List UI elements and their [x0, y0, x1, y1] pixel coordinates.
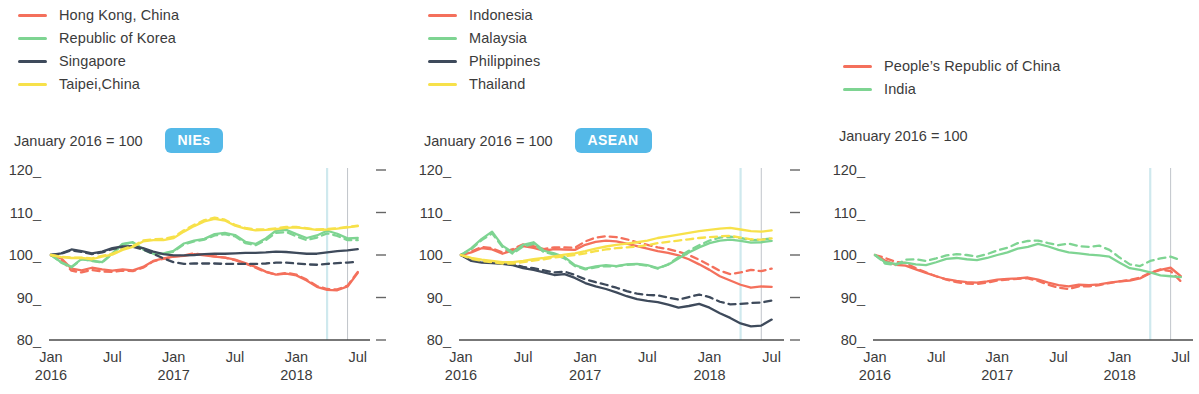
chart-svg — [825, 160, 1199, 355]
panel-asean: Indonesia Malaysia Philippines Thailand … — [410, 0, 825, 394]
series-line — [875, 241, 1181, 266]
legend-swatch-icon — [18, 37, 47, 40]
x-tick-label: Jul — [762, 349, 781, 366]
subtitle-row: January 2016 = 100 — [839, 128, 968, 144]
x-tick-year: 2018 — [1104, 366, 1136, 384]
x-axis-labels: Jan2016JulJan2017JulJan2018Jul — [0, 349, 410, 394]
legend-swatch-icon — [18, 83, 47, 86]
legend-item: India — [843, 78, 1060, 101]
x-tick-label: Jul — [348, 349, 367, 366]
plot-area-nies — [0, 160, 410, 350]
x-tick-label: Jan2017 — [569, 349, 601, 384]
x-tick-label: Jan2017 — [158, 349, 190, 384]
x-tick-month: Jan — [859, 349, 891, 366]
x-tick-label: Jul — [226, 349, 245, 366]
x-tick-year: 2016 — [445, 366, 477, 384]
legend-nies: Hong Kong, China Republic of Korea Singa… — [18, 4, 179, 96]
legend-item: Philippines — [428, 50, 540, 73]
x-tick-month: Jul — [638, 349, 657, 366]
legend-item: Republic of Korea — [18, 27, 179, 50]
x-tick-month: Jul — [927, 349, 946, 366]
index-base-note: January 2016 = 100 — [424, 133, 553, 149]
x-tick-month: Jan — [1104, 349, 1136, 366]
legend-label: Hong Kong, China — [59, 8, 179, 23]
x-tick-month: Jul — [514, 349, 533, 366]
x-tick-label: Jul — [638, 349, 657, 366]
legend-item: Thailand — [428, 73, 540, 96]
series-line — [461, 228, 772, 262]
legend-item: People’s Republic of China — [843, 55, 1060, 78]
legend-label: Malaysia — [469, 31, 527, 46]
x-tick-label: Jul — [1172, 349, 1191, 366]
legend-label: Singapore — [59, 54, 126, 69]
legend-label: Indonesia — [469, 8, 533, 23]
legend-label: Thailand — [469, 77, 525, 92]
x-tick-month: Jan — [693, 349, 725, 366]
legend-asean: Indonesia Malaysia Philippines Thailand — [428, 4, 540, 96]
legend-swatch-icon — [428, 83, 457, 86]
legend-swatch-icon — [843, 65, 872, 68]
x-tick-month: Jul — [348, 349, 367, 366]
x-tick-month: Jan — [445, 349, 477, 366]
legend-label: Philippines — [469, 54, 540, 69]
legend-item: Malaysia — [428, 27, 540, 50]
subtitle-row: January 2016 = 100 NIEs — [14, 128, 223, 153]
index-base-note: January 2016 = 100 — [839, 128, 968, 144]
subtitle-row: January 2016 = 100 ASEAN — [424, 128, 652, 153]
chart-svg — [0, 160, 410, 355]
x-tick-month: Jul — [1049, 349, 1068, 366]
x-tick-month: Jan — [981, 349, 1013, 366]
legend-item: Indonesia — [428, 4, 540, 27]
panel-nies: Hong Kong, China Republic of Korea Singa… — [0, 0, 410, 394]
x-tick-month: Jan — [158, 349, 190, 366]
legend-swatch-icon — [18, 14, 47, 17]
x-tick-month: Jan — [569, 349, 601, 366]
x-tick-label: Jan2018 — [1104, 349, 1136, 384]
panel-badge-nies: NIEs — [165, 128, 224, 153]
x-axis-labels: Jan2016JulJan2017JulJan2018Jul — [825, 349, 1199, 394]
x-tick-label: Jan2016 — [445, 349, 477, 384]
legend-prc-india: People’s Republic of China India — [843, 55, 1060, 101]
x-axis-labels: Jan2016JulJan2017JulJan2018Jul — [410, 349, 825, 394]
legend-label: India — [884, 82, 916, 97]
legend-label: Taipei,China — [59, 77, 140, 92]
x-tick-label: Jan2016 — [859, 349, 891, 384]
x-tick-label: Jan2018 — [280, 349, 312, 384]
x-tick-label: Jul — [103, 349, 122, 366]
x-tick-label: Jan2017 — [981, 349, 1013, 384]
chart-figure: Hong Kong, China Republic of Korea Singa… — [0, 0, 1199, 394]
panel-prc-india: People’s Republic of China India January… — [825, 0, 1199, 394]
plot-area-prc-india — [825, 160, 1199, 350]
x-tick-year: 2017 — [981, 366, 1013, 384]
legend-label: Republic of Korea — [59, 31, 176, 46]
legend-swatch-icon — [843, 88, 872, 91]
series-line — [51, 254, 358, 290]
x-tick-month: Jul — [226, 349, 245, 366]
index-base-note: January 2016 = 100 — [14, 133, 143, 149]
legend-item: Taipei,China — [18, 73, 179, 96]
x-tick-month: Jul — [762, 349, 781, 366]
chart-svg — [410, 160, 825, 355]
x-tick-label: Jul — [927, 349, 946, 366]
x-tick-label: Jul — [514, 349, 533, 366]
legend-swatch-icon — [428, 60, 457, 63]
legend-item: Hong Kong, China — [18, 4, 179, 27]
legend-item: Singapore — [18, 50, 179, 73]
x-tick-label: Jul — [1049, 349, 1068, 366]
plot-area-asean — [410, 160, 825, 350]
panel-badge-asean: ASEAN — [575, 128, 652, 153]
legend-swatch-icon — [18, 60, 47, 63]
x-tick-year: 2016 — [859, 366, 891, 384]
x-tick-year: 2018 — [693, 366, 725, 384]
x-tick-month: Jul — [103, 349, 122, 366]
x-tick-year: 2017 — [569, 366, 601, 384]
x-tick-year: 2018 — [280, 366, 312, 384]
x-tick-label: Jan2016 — [35, 349, 67, 384]
x-tick-year: 2016 — [35, 366, 67, 384]
legend-swatch-icon — [428, 14, 457, 17]
x-tick-label: Jan2018 — [693, 349, 725, 384]
legend-label: People’s Republic of China — [884, 59, 1060, 74]
x-tick-month: Jan — [280, 349, 312, 366]
x-tick-month: Jan — [35, 349, 67, 366]
x-tick-month: Jul — [1172, 349, 1191, 366]
